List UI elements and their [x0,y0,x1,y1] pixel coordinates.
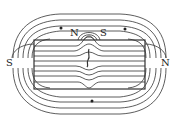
magnet-field-diagram [0,0,176,126]
left-pole-label: S [6,58,13,68]
right-pole-label: N [161,58,170,68]
crack [87,49,89,67]
internal-field-lines [34,33,145,89]
arrow-icon [60,27,63,30]
crack-north-label: N [70,28,79,38]
arrow-icon [91,100,94,103]
crack-south-label: S [100,28,107,38]
arrow-icon [124,28,127,31]
